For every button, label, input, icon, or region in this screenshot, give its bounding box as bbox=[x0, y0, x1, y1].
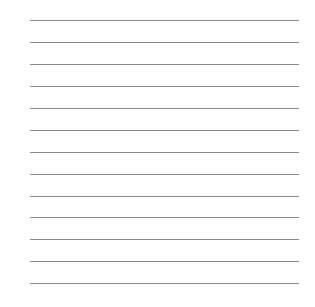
ruled-line bbox=[30, 239, 299, 240]
ruled-line bbox=[30, 152, 299, 153]
ruled-line bbox=[30, 261, 299, 262]
ruled-line bbox=[30, 283, 299, 284]
ruled-line bbox=[30, 217, 299, 218]
ruled-line bbox=[30, 174, 299, 175]
ruled-line bbox=[30, 130, 299, 131]
ruled-line bbox=[30, 86, 299, 87]
ruled-line bbox=[30, 42, 299, 43]
ruled-line bbox=[30, 196, 299, 197]
ruled-line bbox=[30, 108, 299, 109]
ruled-line bbox=[30, 20, 299, 21]
lined-paper-page bbox=[0, 0, 315, 307]
ruled-line bbox=[30, 64, 299, 65]
